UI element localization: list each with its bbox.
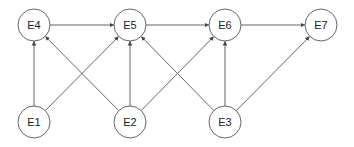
node-label-e2: E2	[114, 114, 146, 130]
node-label-e5: E5	[114, 17, 146, 33]
node-label-e4: E4	[18, 17, 50, 33]
node-label-e6: E6	[209, 17, 241, 33]
node-label-e7: E7	[305, 17, 337, 33]
edge-e3-to-e7	[236, 36, 309, 110]
node-label-e3: E3	[209, 114, 241, 130]
graph-canvas	[0, 0, 354, 147]
edges-layer	[34, 25, 310, 111]
node-label-e1: E1	[18, 114, 50, 130]
